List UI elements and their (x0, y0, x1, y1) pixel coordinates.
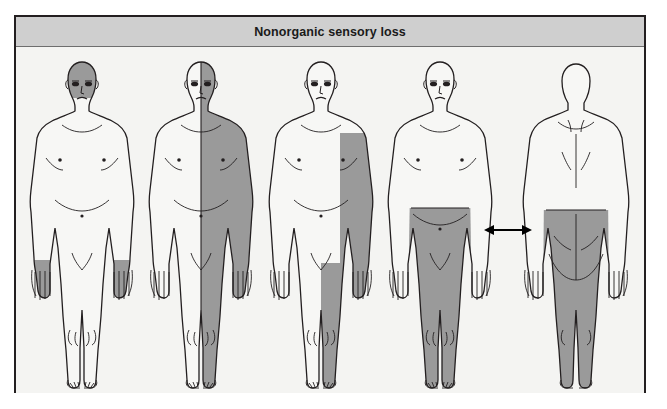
figure-1-skin (22, 48, 142, 393)
double-headed-arrow (482, 216, 534, 244)
figure-2-hemisensory-loss (141, 48, 261, 393)
panel-title: Nonorganic sensory loss (254, 25, 406, 39)
figure-5-waist-down-posterior (516, 48, 636, 393)
panel-header: Nonorganic sensory loss (16, 17, 644, 47)
figure-1-head-and-glove-distribution (22, 48, 142, 393)
figure-stage (16, 48, 644, 393)
figure-3-ipsilateral-arm-and-leg (261, 48, 381, 393)
figure-panel: Nonorganic sensory loss (14, 15, 646, 393)
